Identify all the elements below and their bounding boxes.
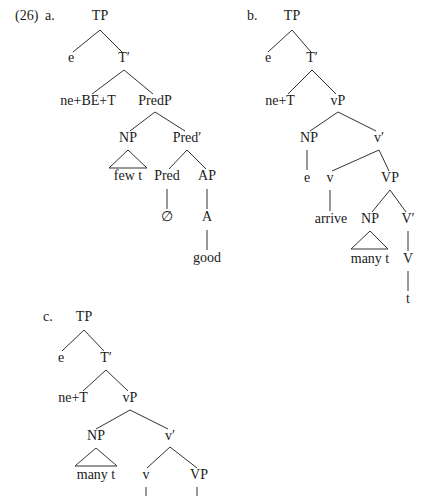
example-number: (26) [15,9,38,23]
node-ne-BE-T: ne+BE+T [60,94,115,108]
node-VP: VP [381,171,399,185]
node-v: v [143,468,150,482]
node-e: e [58,351,64,365]
node-TP: TP [76,310,92,324]
node-ne-T: ne+T [58,391,88,405]
tree-label: c. [43,310,53,324]
node-few-t: few t [114,169,142,183]
node-TP: TP [92,9,108,23]
node-NP: NP [87,429,105,443]
node-V: V [403,252,413,266]
node-T-bar: T′ [306,51,318,65]
node-vP: vP [331,94,346,108]
node-t: t [406,292,410,306]
node-T-bar: T′ [100,351,112,365]
node-NP: NP [300,131,318,145]
tree-branches [0,0,424,496]
node-v-bar: v′ [165,429,175,443]
node-NP2: NP [361,212,379,226]
node-v: v [327,171,334,185]
node-NP-e: e [304,171,310,185]
node-TP: TP [284,9,300,23]
tree-label: b. [247,9,258,23]
node-VP: VP [190,468,208,482]
node-ne-T: ne+T [265,94,295,108]
node-good: good [193,251,221,265]
node-PredP: PredP [138,94,171,108]
node-null: ∅ [161,210,173,224]
node-e: e [68,51,74,65]
node-AP: AP [198,169,216,183]
node-arrive: arrive [315,212,348,226]
node-V-bar: V′ [401,212,414,226]
node-Pred-bar: Pred′ [173,131,202,145]
node-vP: vP [123,391,138,405]
node-A: A [202,210,212,224]
node-Pred: Pred [154,169,180,183]
node-many-t: many t [351,252,390,266]
node-v-bar: v′ [374,131,384,145]
node-many-t: many t [77,468,116,482]
tree-label: a. [45,9,55,23]
node-T-bar: T′ [118,51,130,65]
node-NP: NP [119,131,137,145]
node-e: e [265,51,271,65]
